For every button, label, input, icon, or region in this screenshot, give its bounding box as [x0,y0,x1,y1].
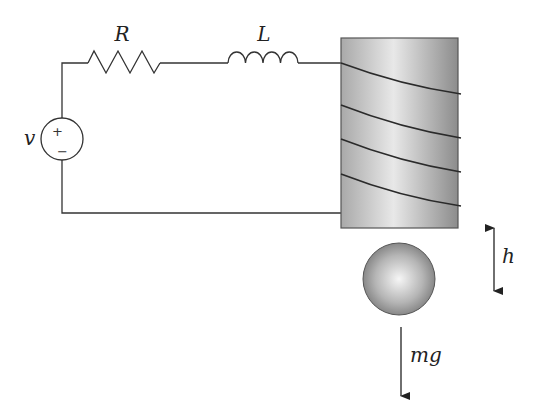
circuit-wires [62,63,342,213]
voltage-source: + − v [24,118,83,160]
resistor: R [88,22,160,73]
height-arrow: h [494,228,515,291]
gravity-arrow: mg [401,327,442,396]
electromagnet-coil [341,38,461,228]
source-minus-sign: − [57,144,68,159]
source-label: v [24,126,36,150]
maglev-diagram: R L + − v h mg [0,0,546,411]
resistor-label: R [113,22,129,46]
source-plus-sign: + [52,124,63,139]
inductor-label: L [256,22,270,46]
gravity-label: mg [410,343,442,367]
inductor: L [228,22,298,63]
steel-ball [363,243,435,315]
height-label: h [502,244,515,268]
